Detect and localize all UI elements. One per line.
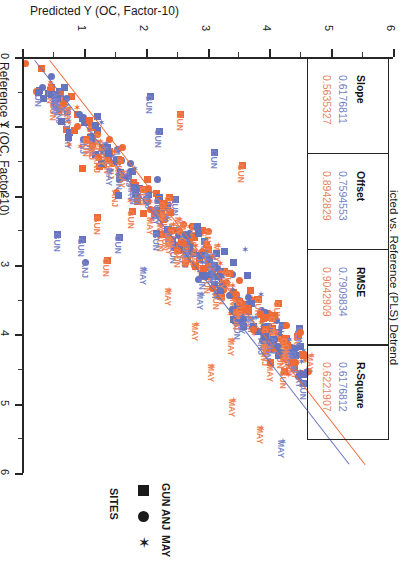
circle-marker <box>138 511 149 522</box>
point-label: MAY <box>206 364 216 382</box>
x-tick-minor <box>300 52 301 57</box>
point-label: GUN <box>151 232 161 251</box>
star-marker: ✶ <box>138 537 149 548</box>
stat-header: R-Square <box>355 362 367 409</box>
y-tick-label: 6 <box>2 466 8 478</box>
data-point <box>247 287 254 294</box>
y-tick-label: 5 <box>2 397 8 409</box>
x-tick-label: 6 <box>388 22 394 34</box>
x-tick-minor <box>177 52 178 57</box>
legend-title: SITES <box>108 488 120 520</box>
stat-value-validation: 0.5635327 <box>321 75 333 125</box>
y-tick-label: 3 <box>2 258 8 270</box>
stat-separator <box>307 249 389 250</box>
x-tick-2 <box>146 49 148 57</box>
y-tick-minor <box>18 369 23 370</box>
data-point <box>283 322 290 329</box>
y-tick-minor <box>18 92 23 93</box>
point-label: GUN <box>113 235 123 254</box>
data-point <box>79 165 86 172</box>
data-point: ✶ <box>284 371 291 378</box>
point-label: ANJ <box>80 261 90 278</box>
data-point <box>39 84 46 91</box>
legend: GUNANJ✶MAY <box>120 485 280 580</box>
stat-value-calibration: 0.6176811 <box>337 75 349 124</box>
data-point <box>194 223 201 230</box>
x-tick-6 <box>393 49 395 57</box>
data-point <box>180 240 187 247</box>
legend-label-anj: ANJ <box>160 509 172 530</box>
point-label: ANJ <box>87 143 97 160</box>
y-tick-4 <box>15 334 23 336</box>
x-tick-minor <box>53 52 54 57</box>
x-tick-label: 2 <box>141 22 147 34</box>
legend-label-may: MAY <box>160 535 172 557</box>
stat-value-calibration: 0.7909834 <box>337 267 349 317</box>
stat-header: RMSE <box>355 267 367 297</box>
x-tick-4 <box>269 49 271 57</box>
point-label: GUN <box>92 216 102 235</box>
data-point <box>115 192 122 199</box>
stat-value-calibration: 0.6176812 <box>337 362 349 412</box>
x-tick-0 <box>22 49 24 57</box>
x-tick-label: 5 <box>326 22 332 34</box>
point-label: GUN <box>52 233 62 252</box>
scatter-plot-figure: Predicted Y (OC, Factor-10) Reference Y … <box>0 0 416 582</box>
y-tick-minor <box>18 300 23 301</box>
y-tick-minor <box>18 438 23 439</box>
statistics-table: Slope0.61768110.5635327Offset0.75945530.… <box>307 57 389 440</box>
data-point: ✶ <box>257 319 264 326</box>
stat-header: Slope <box>355 75 367 104</box>
x-tick-1 <box>84 49 86 57</box>
stat-separator <box>307 344 389 345</box>
y-tick-minor <box>18 230 23 231</box>
point-label: GUN <box>153 129 163 148</box>
x-tick-label: 4 <box>264 22 270 34</box>
data-point: ✶ <box>65 141 72 148</box>
y-tick-label: 4 <box>2 327 8 339</box>
point-label: MAY <box>104 168 114 186</box>
point-label: MAY <box>163 288 173 306</box>
y-tick-minor <box>18 161 23 162</box>
data-point <box>140 210 147 217</box>
point-label: MAY <box>276 440 286 458</box>
legend-label-gun: GUN <box>160 483 172 506</box>
point-label: GUN <box>126 210 136 229</box>
point-label: GUN <box>101 258 111 277</box>
stat-value-validation: 0.6221907 <box>321 362 333 412</box>
y-tick-0 <box>15 57 23 59</box>
y-tick-5 <box>15 404 23 406</box>
y-tick-1 <box>15 126 23 128</box>
point-label: MAY <box>255 426 265 444</box>
y-tick-label: 0 <box>2 50 8 62</box>
y-tick-6 <box>15 473 23 475</box>
stat-separator <box>307 153 389 154</box>
data-point <box>200 265 207 272</box>
point-label: MAY <box>138 267 148 285</box>
x-axis-title: Predicted Y (OC, Factor-10) <box>30 4 179 18</box>
y-tick-2 <box>15 196 23 198</box>
point-label: MAY <box>190 323 200 341</box>
data-point: ✶ <box>208 253 215 260</box>
stat-value-calibration: 0.7594553 <box>337 171 349 221</box>
point-label: GUN <box>209 150 219 169</box>
data-point: ✶ <box>297 358 304 365</box>
data-point <box>195 230 202 237</box>
x-tick-5 <box>331 49 333 57</box>
y-tick-3 <box>15 265 23 267</box>
point-label: MAY <box>226 338 236 356</box>
data-point <box>230 259 237 266</box>
x-tick-minor <box>238 52 239 57</box>
data-point: ✶ <box>296 369 303 376</box>
stat-value-validation: 0.8942829 <box>321 171 333 221</box>
data-point <box>74 123 81 130</box>
x-tick-label: 1 <box>79 22 85 34</box>
point-label: MAY <box>227 399 237 417</box>
square-marker <box>138 485 149 496</box>
point-label: GUN <box>76 238 86 257</box>
x-tick-3 <box>208 49 210 57</box>
data-point <box>244 272 251 279</box>
stat-value-validation: 0.9042909 <box>321 267 333 317</box>
data-point: ✶ <box>241 246 248 253</box>
y-tick-label: 1 <box>2 119 8 131</box>
